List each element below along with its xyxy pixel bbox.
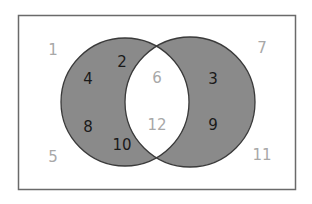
element-label-a-only: 10 bbox=[112, 136, 131, 154]
element-label-outside: 5 bbox=[48, 148, 58, 166]
element-label-intersection: 12 bbox=[147, 116, 166, 134]
element-label-b-only: 3 bbox=[208, 70, 218, 88]
element-label-a-only: 2 bbox=[117, 53, 127, 71]
venn-diagram: 1 7 5 11 2 4 8 10 6 12 3 9 bbox=[0, 0, 312, 204]
element-label-outside: 7 bbox=[257, 39, 267, 57]
element-label-intersection: 6 bbox=[152, 69, 162, 87]
element-label-a-only: 4 bbox=[83, 70, 93, 88]
element-label-a-only: 8 bbox=[83, 118, 93, 136]
element-label-outside: 1 bbox=[48, 41, 58, 59]
element-label-b-only: 9 bbox=[208, 116, 218, 134]
element-label-outside: 11 bbox=[252, 146, 271, 164]
